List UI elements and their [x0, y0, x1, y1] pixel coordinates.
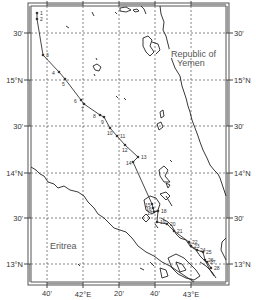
lat-label: 30'	[13, 29, 23, 38]
station-marker	[152, 207, 155, 210]
lon-label: 40'	[42, 289, 52, 298]
station-marker	[190, 245, 193, 248]
station-marker	[137, 156, 140, 159]
station-marker	[124, 144, 127, 147]
country-labels: Republic of Yemen Eritrea	[50, 49, 223, 251]
lat-labels-right: 30' 15°N 30' 14°N 30' 13°N	[234, 29, 251, 269]
country-label-eritrea: Eritrea	[50, 241, 77, 251]
station-label: 18	[161, 208, 167, 214]
lat-label: 30'	[234, 214, 244, 223]
station-marker	[204, 259, 207, 262]
station-marker	[36, 12, 39, 15]
station-marker	[196, 249, 199, 252]
station-label: 14	[126, 160, 132, 166]
station-marker	[64, 78, 67, 81]
station-label: 12	[122, 147, 128, 153]
lat-label: 30'	[13, 122, 23, 131]
station-label: 13	[141, 154, 147, 160]
station-label: 4	[52, 70, 55, 76]
lon-label: 43°E	[183, 290, 199, 299]
station-label: 19	[160, 219, 166, 225]
lon-label: 20'	[114, 289, 124, 298]
station-marker	[173, 230, 176, 233]
station-label: 17	[147, 210, 153, 216]
station-label: 28	[214, 265, 220, 271]
station-label: 7	[81, 106, 84, 112]
country-label-yemen-line2: Yemen	[177, 58, 205, 68]
station-label: 10	[107, 130, 113, 136]
station-marker	[166, 223, 169, 226]
station-marker	[202, 251, 205, 254]
station-marker	[116, 135, 119, 138]
station-marker	[132, 161, 135, 164]
station-marker	[103, 116, 106, 119]
station-label: 2	[40, 16, 43, 22]
lon-label: 40'	[150, 289, 160, 298]
station-label: 21	[177, 228, 183, 234]
lat-label: 30'	[234, 29, 244, 38]
station-label: 9	[101, 119, 104, 125]
station-marker	[83, 103, 86, 106]
station-marker	[210, 267, 213, 270]
station-marker	[36, 18, 39, 21]
lat-label: 30'	[234, 122, 244, 131]
station-marker	[151, 203, 154, 206]
station-label: 20	[170, 221, 176, 227]
map-figure: 1234567891011121314151617181920212223242…	[0, 0, 256, 300]
lat-label: 15°N	[6, 76, 23, 85]
station-marker	[157, 210, 160, 213]
station-label: 11	[120, 133, 125, 139]
station-label: 23	[194, 243, 200, 249]
lat-labels-left: 30' 15°N 30' 14°N 30' 13°N	[6, 29, 23, 269]
lon-labels-bottom: 40' 42°E 20' 40' 43°E	[42, 289, 199, 299]
station-marker	[42, 54, 45, 57]
station-label: 25	[206, 249, 212, 255]
lat-label: 13°N	[6, 260, 23, 269]
lat-label: 14°N	[6, 169, 23, 178]
station-marker	[188, 241, 191, 244]
station-marker	[99, 114, 102, 117]
station-marker	[156, 221, 159, 224]
lat-label: 15°N	[234, 76, 251, 85]
station-marker	[153, 211, 156, 214]
lat-label: 30'	[13, 214, 23, 223]
lat-label: 14°N	[234, 169, 251, 178]
station-label: 6	[74, 98, 77, 104]
lat-label: 13°N	[234, 260, 251, 269]
station-label: 3	[46, 52, 49, 58]
station-label: 5	[62, 81, 65, 87]
station-marker	[58, 71, 61, 74]
lon-label: 42°E	[75, 290, 91, 299]
station-label: 8	[93, 113, 96, 119]
station-marker	[109, 127, 112, 130]
station-marker	[80, 99, 83, 102]
station-marker	[206, 261, 209, 264]
